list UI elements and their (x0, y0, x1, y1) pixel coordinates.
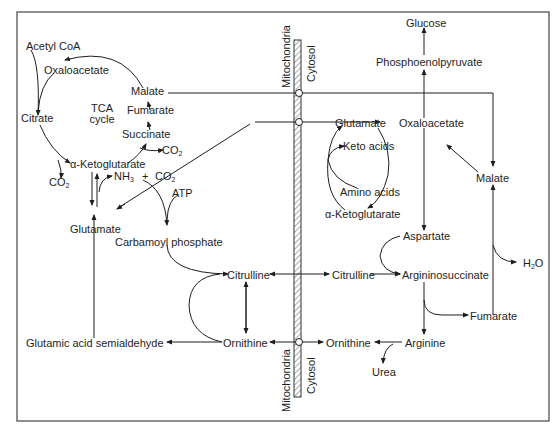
glucose-label: Glucose (406, 17, 446, 29)
ornithine-mito-label: Ornithine (223, 337, 268, 349)
citrate-label: Citrate (21, 112, 53, 124)
malate-cytosol-label: Malate (476, 172, 509, 184)
urea-label: Urea (372, 366, 396, 378)
mitochondria-label-top: Mitochondria (280, 25, 292, 88)
malate-mito-label: Malate (131, 85, 164, 97)
oxaloacetate-cytosol-label: Oxaloacetate (399, 117, 464, 129)
glutamate-cytosol-label: Glutamate (335, 117, 386, 129)
h2o-label: H2O (523, 257, 543, 273)
glutamate-mito-label: Glutamate (70, 223, 121, 235)
nh3-label: NH3 (114, 170, 134, 186)
citrulline-cytosol-label: Citrulline (332, 269, 375, 281)
oxaloacetate-mito-label: Oxaloacetate (44, 64, 109, 76)
ornithine-cytosol-label: Ornithine (326, 337, 371, 349)
akg-mito-label: α-Ketoglutarate (70, 158, 145, 170)
arginine-label: Arginine (405, 337, 445, 349)
amino-acids-label: Amino acids (340, 186, 400, 198)
co2-akg-label: CO2 (49, 176, 69, 192)
akg-cytosol-label: α-Ketoglutarate (325, 208, 400, 220)
carbamoyl-phosphate-label: Carbamoyl phosphate (115, 236, 223, 248)
metabolic-pathway-diagram: Mitochondria Cytosol Mitochondria Cytoso… (0, 0, 560, 431)
acetyl-coa-label: Acetyl CoA (26, 40, 80, 52)
phosphoenolpyruvate-label: Phosphoenolpyruvate (376, 56, 482, 68)
argininosuccinate-label: Argininosuccinate (402, 269, 489, 281)
mitochondria-label-bottom: Mitochondria (280, 349, 292, 412)
glutamic-acid-semialdehyde-label: Glutamic acid semialdehyde (26, 337, 164, 349)
plus-label: + (142, 170, 148, 182)
cytosol-label-bottom: Cytosol (305, 357, 317, 394)
fumarate-cytosol-label: Fumarate (470, 310, 517, 322)
co2-succinate-label: CO2 (162, 144, 182, 160)
citrulline-mito-label: Citrulline (227, 269, 270, 281)
succinate-label: Succinate (122, 128, 170, 140)
fumarate-mito-label: Fumarate (127, 104, 174, 116)
co2-mito-label: CO2 (155, 170, 175, 186)
atp-label: ATP (172, 187, 193, 199)
cytosol-label-top: Cytosol (305, 45, 317, 82)
keto-acids-label: Keto acids (343, 140, 394, 152)
aspartate-label: Aspartate (403, 230, 450, 242)
cycle-label: cycle (89, 113, 114, 125)
